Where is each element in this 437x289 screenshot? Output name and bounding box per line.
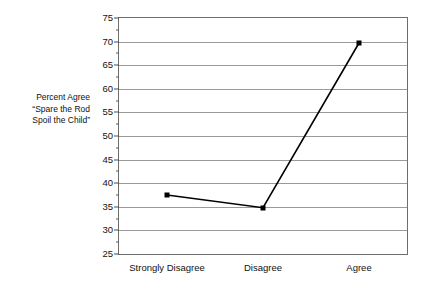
y-tick-label: 35 <box>102 202 113 212</box>
y-tick-label: 60 <box>102 84 113 94</box>
y-axis-title: Percent Agree “Spare the Rod Spoil the C… <box>4 92 90 127</box>
y-tick-label: 55 <box>102 108 113 118</box>
x-tick-label: Disagree <box>244 262 282 273</box>
y-axis-title-line-1: Percent Agree <box>4 92 90 104</box>
data-point-marker <box>261 205 266 210</box>
y-tick-label: 40 <box>102 178 113 188</box>
line-chart-figure: Percent Agree “Spare the Rod Spoil the C… <box>0 0 437 289</box>
y-tick-label: 70 <box>102 37 113 47</box>
data-point-marker <box>165 193 170 198</box>
y-axis-title-line-2: “Spare the Rod <box>4 104 90 116</box>
y-axis-title-line-3: Spoil the Child” <box>4 115 90 127</box>
y-tick-label: 25 <box>102 249 113 259</box>
y-tick-label: 65 <box>102 60 113 70</box>
x-tick-label: Agree <box>346 262 371 273</box>
plot-area: 2530354045505560657075 Strongly Disagree… <box>118 17 408 255</box>
y-tick-label: 75 <box>102 13 113 23</box>
y-tick-label: 50 <box>102 131 113 141</box>
x-tick-label: Strongly Disagree <box>129 262 205 273</box>
series-line <box>119 18 407 254</box>
y-tick-label: 45 <box>102 155 113 165</box>
y-tick-label: 30 <box>102 226 113 236</box>
data-point-marker <box>357 41 362 46</box>
